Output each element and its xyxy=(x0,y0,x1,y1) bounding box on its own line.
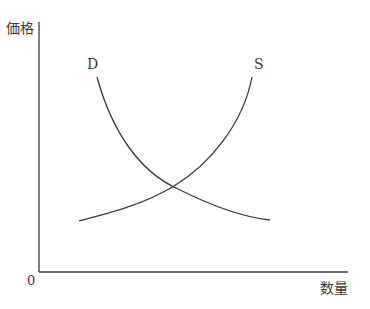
supply-demand-diagram: 価格 数量 0 D S xyxy=(0,0,370,309)
x-axis-label: 数量 xyxy=(320,280,348,296)
origin-label: 0 xyxy=(27,273,35,288)
demand-label: D xyxy=(87,56,98,72)
supply-curve xyxy=(79,77,252,221)
supply-label: S xyxy=(254,56,264,72)
y-axis-label: 価格 xyxy=(6,20,34,36)
demand-curve xyxy=(97,77,270,220)
